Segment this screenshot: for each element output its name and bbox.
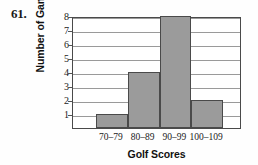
problem-number: 61. — [11, 6, 26, 22]
y-axis-tick-label: 4 — [54, 67, 69, 79]
bar — [96, 114, 128, 128]
y-axis-tick-label: 7 — [54, 25, 69, 37]
x-axis-tick-labels: 70–7980–8990–99100–109 — [72, 131, 241, 144]
y-axis-tick-label: 8 — [54, 11, 69, 23]
bar — [160, 16, 192, 128]
y-axis-tick-label: 1 — [54, 109, 69, 121]
y-axis-tick-label: 3 — [54, 81, 69, 93]
y-axis-title: Number of Games — [33, 0, 47, 80]
y-axis-tick-label: 2 — [54, 95, 69, 107]
plot-area — [72, 17, 241, 129]
y-axis-tick-label: 5 — [54, 53, 69, 65]
histogram-figure: 61. Number of Games 12345678 70–7980–899… — [0, 0, 258, 165]
x-axis-tick-label: 100–109 — [184, 131, 228, 144]
bar — [128, 72, 160, 128]
bar — [191, 100, 223, 128]
bar-series — [73, 18, 240, 128]
y-axis-tick-labels: 12345678 — [54, 16, 69, 132]
y-axis-tick-label: 6 — [54, 39, 69, 51]
x-axis-title: Golf Scores — [72, 147, 241, 161]
